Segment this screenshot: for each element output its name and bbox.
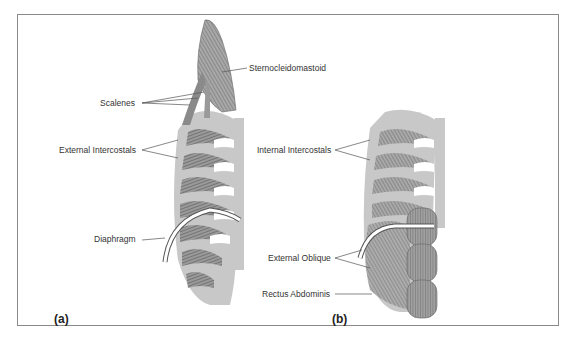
label-sternocleidomastoid: Sternocleidomastoid bbox=[249, 63, 326, 73]
label-internal-intercostals: Internal Intercostals bbox=[257, 145, 331, 155]
label-external-oblique: External Oblique bbox=[268, 253, 331, 263]
panel-b-label: (b) bbox=[332, 312, 347, 326]
panel-a-ribcage bbox=[165, 20, 244, 305]
label-diaphragm: Diaphragm bbox=[94, 234, 136, 244]
panel-b-ribcage bbox=[360, 110, 445, 318]
panel-a-label: (a) bbox=[54, 312, 69, 326]
label-scalenes: Scalenes bbox=[100, 98, 135, 108]
label-rectus-abdominis: Rectus Abdominis bbox=[262, 289, 330, 299]
label-external-intercostals: External Intercostals bbox=[59, 145, 136, 155]
